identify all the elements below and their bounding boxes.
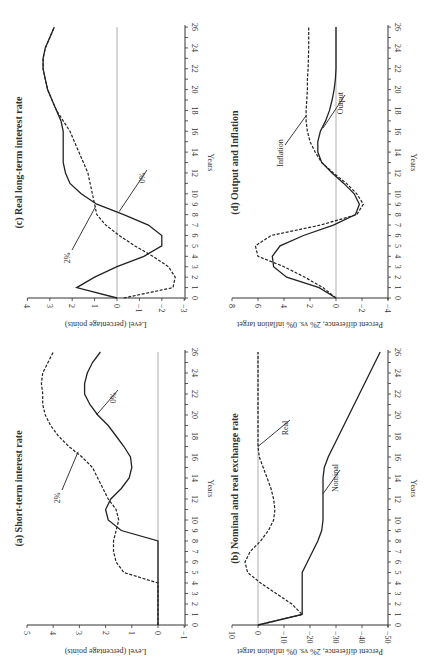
y-axis-label: Percent difference, 2% vs. 0% inflation … (236, 647, 383, 656)
series-inflation (255, 27, 363, 298)
year-tick-label: 9 (393, 202, 402, 206)
year-tick-label: 3 (393, 592, 402, 596)
series-nominal (258, 352, 380, 625)
year-tick-label: 8 (190, 539, 199, 543)
year-tick-label: 6 (190, 233, 199, 237)
value-tick-label: −2 (357, 304, 366, 313)
year-tick-label: 12 (393, 169, 402, 177)
year-tick-label: 0 (393, 623, 402, 627)
year-tick-label: 4 (393, 254, 402, 258)
year-tick-label: 0 (190, 623, 199, 627)
x-axis-label: Years (409, 154, 418, 172)
panel-b: 100−10−20−30−40−500123456789101214161820… (227, 348, 418, 656)
year-tick-label: 12 (190, 495, 199, 503)
year-tick-label: 26 (393, 23, 402, 31)
year-tick-label: 12 (190, 169, 199, 177)
value-tick-label: 6 (253, 304, 262, 308)
year-tick-label: 5 (393, 571, 402, 575)
year-tick-label: 6 (190, 560, 199, 564)
x-axis-label: Years (206, 154, 215, 172)
year-tick-label: 14 (190, 474, 199, 482)
y-axis-label: Percent difference, 2% vs. 0% inflation … (236, 320, 383, 329)
leader-line (285, 116, 306, 145)
year-tick-label: 26 (190, 348, 199, 356)
year-tick-label: 4 (190, 254, 199, 258)
y-axis-label: Level (percentage points) (65, 320, 147, 329)
series-2pct (41, 352, 158, 625)
year-tick-label: 16 (190, 453, 199, 461)
year-tick-label: 7 (393, 550, 402, 554)
year-tick-label: 26 (190, 23, 199, 31)
year-tick-label: 12 (393, 495, 402, 503)
year-tick-label: 14 (190, 148, 199, 156)
year-tick-label: 24 (393, 369, 402, 377)
year-tick-label: 1 (190, 286, 199, 290)
year-tick-label: 0 (190, 296, 199, 300)
year-tick-label: 22 (393, 390, 402, 398)
value-tick-label: 4 (279, 304, 288, 308)
value-tick-label: −10 (279, 631, 288, 644)
year-tick-label: 7 (190, 223, 199, 227)
year-tick-label: 3 (190, 592, 199, 596)
year-tick-label: 3 (393, 265, 402, 269)
year-tick-label: 20 (190, 411, 199, 419)
year-tick-label: 16 (393, 453, 402, 461)
value-tick-label: 5 (22, 631, 31, 635)
value-tick-label: 1 (127, 631, 136, 635)
value-tick-label: −30 (331, 631, 340, 644)
value-tick-label: 3 (45, 304, 54, 308)
value-tick-label: 4 (48, 631, 57, 635)
value-tick-label: 10 (227, 631, 236, 639)
year-tick-label: 8 (393, 213, 402, 217)
year-tick-label: 22 (190, 65, 199, 73)
year-tick-label: 5 (190, 244, 199, 248)
year-tick-label: 2 (190, 602, 199, 606)
year-tick-label: 24 (190, 369, 199, 377)
year-tick-label: 5 (190, 571, 199, 575)
value-tick-label: 8 (227, 304, 236, 308)
panel-d: 86420−2−40123456789101214161820222426Yea… (227, 23, 418, 329)
year-tick-label: 8 (393, 539, 402, 543)
series-0pct (43, 27, 162, 298)
year-tick-label: 10 (393, 516, 402, 524)
value-tick-label: 2 (101, 631, 110, 635)
year-tick-label: 2 (190, 275, 199, 279)
x-axis-label: Years (409, 480, 418, 498)
year-tick-label: 0 (393, 296, 402, 300)
year-tick-label: 4 (190, 581, 199, 585)
year-tick-label: 4 (393, 581, 402, 585)
year-tick-label: 7 (393, 223, 402, 227)
year-tick-label: 10 (393, 190, 402, 198)
series-output (272, 27, 359, 298)
figure: −10123450123456789101214161820222426Year… (0, 0, 425, 665)
panel-title: (b) Nominal and real exchange rate (229, 413, 241, 564)
year-tick-label: 18 (393, 106, 402, 114)
year-tick-label: 14 (393, 474, 402, 482)
series-label: Inflation (276, 139, 285, 167)
year-tick-label: 16 (393, 127, 402, 135)
series-label: Nominal (331, 463, 340, 492)
panel-title: (d) Output and Inflation (229, 110, 241, 215)
value-tick-label: −50 (383, 631, 392, 644)
year-tick-label: 9 (190, 529, 199, 533)
series-0pct (85, 352, 158, 625)
series-label: 2% (53, 492, 62, 503)
year-tick-label: 2 (393, 602, 402, 606)
year-tick-label: 6 (393, 233, 402, 237)
series-label: 2% (63, 252, 72, 263)
value-tick-label: −20 (305, 631, 314, 644)
year-tick-label: 10 (190, 190, 199, 198)
value-tick-label: 2 (67, 304, 76, 308)
year-tick-label: 18 (190, 432, 199, 440)
series-label: 0% (138, 172, 147, 183)
panel-c: 43210−1−2−30123456789101214161820222426Y… (13, 23, 215, 329)
value-tick-label: 0 (153, 631, 162, 635)
panel-a: −10123450123456789101214161820222426Year… (13, 348, 215, 656)
x-axis-label: Years (206, 480, 215, 498)
year-tick-label: 2 (393, 275, 402, 279)
year-tick-label: 6 (393, 560, 402, 564)
value-tick-label: 1 (90, 304, 99, 308)
year-tick-label: 20 (190, 86, 199, 94)
year-tick-label: 18 (393, 432, 402, 440)
series-label: Real (281, 420, 290, 435)
